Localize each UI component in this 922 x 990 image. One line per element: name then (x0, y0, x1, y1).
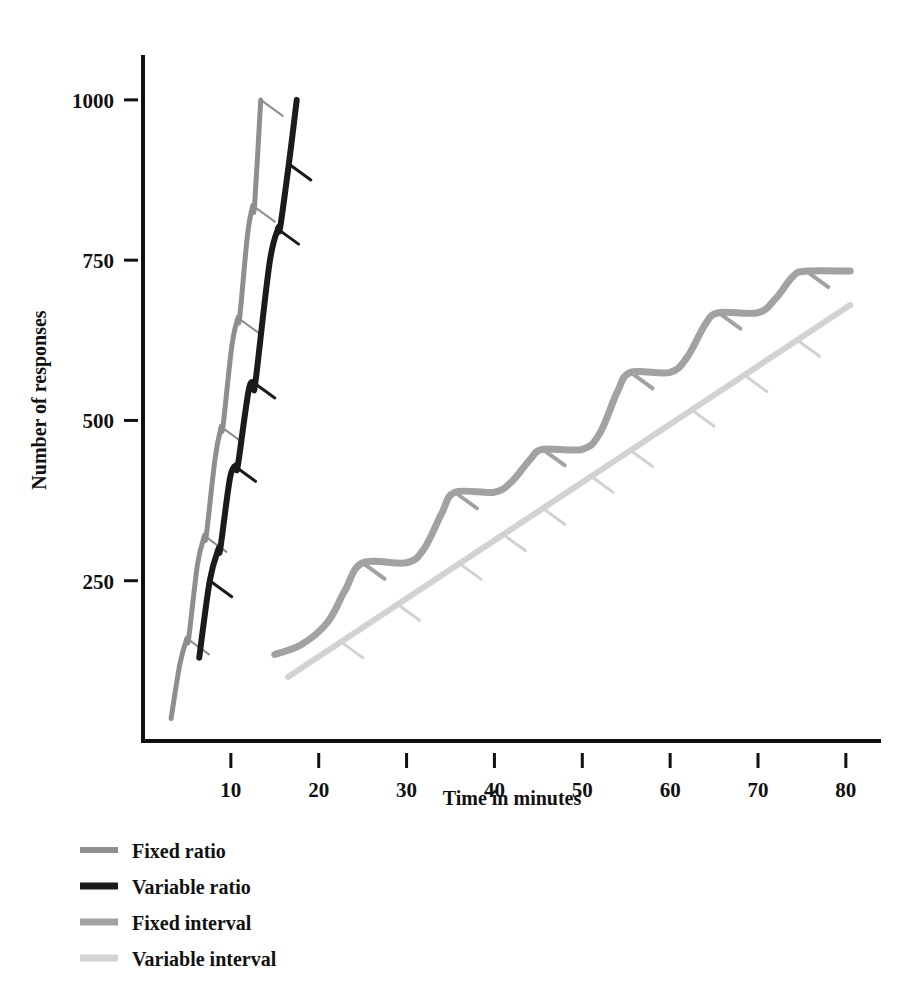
cumulative-response-chart: 2505007501000 1020304050607080 Number of… (0, 0, 922, 990)
x-axis-tick-label: 70 (748, 778, 769, 802)
series-line (199, 100, 297, 658)
x-axis-tick-label: 30 (396, 778, 417, 802)
reinforcement-hash-mark (210, 581, 232, 597)
y-axis-tick-label: 1000 (72, 89, 114, 113)
chart-canvas: 2505007501000 1020304050607080 Number of… (0, 0, 922, 990)
x-axis-tick-label: 10 (220, 778, 241, 802)
x-axis-tick-label: 80 (835, 778, 856, 802)
y-axis-tick-label: 250 (83, 570, 115, 594)
series-line (288, 305, 850, 677)
x-axis-tick-label: 60 (660, 778, 681, 802)
x-axis-title: Time in minutes (443, 787, 582, 809)
legend-item-label: Variable ratio (132, 876, 251, 898)
x-axis-ticks (231, 753, 846, 768)
reinforcement-hash-mark (238, 318, 260, 334)
reinforcement-hash-mark (289, 164, 311, 180)
chart-series (288, 305, 850, 677)
y-axis-title: Number of responses (28, 310, 51, 489)
chart-series-group (171, 100, 850, 719)
reinforcement-hash-mark (503, 535, 525, 551)
legend-item-label: Fixed ratio (132, 840, 226, 862)
reinforcement-hash-mark (631, 451, 653, 467)
legend-item[interactable]: Fixed ratio (74, 833, 374, 863)
legend-item[interactable]: Fixed interval (74, 905, 374, 935)
reinforcement-hash-mark (261, 100, 283, 116)
reinforcement-hash-mark (798, 340, 820, 356)
y-axis-tick-label: 500 (83, 409, 115, 433)
reinforcement-hash-mark (398, 604, 420, 620)
reinforcement-hash-mark (277, 228, 299, 244)
y-axis-tick-label: 750 (83, 249, 115, 273)
reinforcement-hash-mark (543, 508, 565, 524)
reinforcement-hash-mark (341, 642, 363, 658)
reinforcement-hash-mark (591, 476, 613, 492)
reinforcement-hash-mark (459, 563, 481, 579)
legend-item-label: Variable interval (132, 948, 277, 970)
chart-series (275, 271, 850, 655)
reinforcement-hash-mark (253, 206, 275, 222)
x-axis-tick-label: 20 (308, 778, 329, 802)
y-axis-tick-labels: 2505007501000 (72, 89, 114, 594)
chart-axes (124, 55, 881, 768)
chart-legend: Fixed ratioVariable ratioFixed intervalV… (74, 833, 374, 971)
reinforcement-hash-mark (745, 376, 767, 392)
y-axis-ticks (124, 100, 138, 581)
legend-item[interactable]: Variable ratio (74, 869, 374, 899)
reinforcement-hash-mark (692, 410, 714, 426)
chart-series (171, 100, 283, 719)
legend-item[interactable]: Variable interval (74, 941, 374, 971)
legend-item-label: Fixed interval (132, 912, 252, 934)
